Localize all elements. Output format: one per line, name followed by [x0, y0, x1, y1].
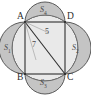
region-label-right-sub: 2: [76, 48, 79, 54]
region-label-bottom-sub: 3: [44, 83, 47, 89]
region-label-top-sub: 4: [44, 10, 47, 16]
vertex-label-a: A: [17, 12, 24, 22]
region-label-left-sub: 1: [8, 48, 11, 54]
geometry-figure: A D B C S1 S2 S4 S3 5 7: [0, 0, 91, 97]
measure-label-side: 7: [32, 41, 36, 49]
region-label-bottom: S3: [40, 79, 47, 89]
region-label-right: S2: [72, 44, 79, 54]
vertex-label-d: D: [67, 12, 74, 22]
vertex-dot-d: [64, 21, 66, 23]
region-label-top: S4: [40, 6, 47, 16]
region-label-left: S1: [4, 44, 11, 54]
measure-label-diagonal: 5: [45, 28, 49, 36]
vertex-dot-c: [64, 73, 66, 75]
vertex-label-b: B: [17, 73, 23, 83]
vertex-dot-b: [24, 73, 26, 75]
vertex-dot-a: [24, 21, 26, 23]
vertex-label-c: C: [67, 73, 73, 83]
